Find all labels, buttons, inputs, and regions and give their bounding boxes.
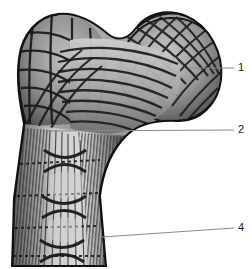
femoral-shaft-region	[12, 124, 126, 266]
bone-body	[0, 0, 252, 269]
anatomy-figure: 1 2 4	[0, 0, 252, 269]
callout-number-1: 1	[238, 62, 244, 73]
callout-number-2: 2	[238, 124, 244, 135]
femur-illustration	[0, 0, 252, 269]
leader-line-4	[88, 228, 234, 238]
callout-number-4: 4	[238, 222, 244, 233]
